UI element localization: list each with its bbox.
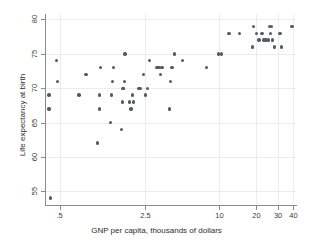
gridline-vertical <box>145 14 146 205</box>
data-point <box>280 45 283 48</box>
data-point <box>129 107 132 110</box>
x-axis-tick-label: 2.5 <box>140 211 150 220</box>
x-axis-tick <box>256 206 257 210</box>
gridline-vertical <box>60 14 61 205</box>
y-axis-tick-label: 65 <box>30 117 39 129</box>
x-axis-tick <box>60 206 61 210</box>
data-point <box>98 93 101 96</box>
gridline-horizontal <box>45 191 296 192</box>
data-point <box>131 93 134 96</box>
y-axis-tick <box>41 19 45 20</box>
gridline-horizontal <box>45 123 296 124</box>
y-axis-tick <box>41 157 45 158</box>
data-point <box>47 107 50 110</box>
gridline-vertical <box>219 14 220 205</box>
y-axis-tick <box>41 54 45 55</box>
data-point <box>128 100 131 103</box>
y-axis-tick-label: 55 <box>30 185 39 197</box>
data-point <box>220 52 223 55</box>
x-axis-tick <box>293 206 294 210</box>
x-axis-tick <box>278 206 279 210</box>
data-point <box>138 87 141 90</box>
x-axis-tick <box>145 206 146 210</box>
gridline-vertical <box>278 14 279 205</box>
data-point <box>49 196 52 199</box>
x-axis-tick-label: 30 <box>274 211 282 220</box>
x-axis-tick-label: 10 <box>215 211 223 220</box>
gridline-vertical <box>256 14 257 205</box>
data-point <box>238 32 241 35</box>
data-point <box>271 38 274 41</box>
data-point <box>123 52 126 55</box>
data-point <box>255 32 258 35</box>
data-point <box>257 38 260 41</box>
x-axis-tick <box>219 206 220 210</box>
data-point <box>170 66 173 69</box>
data-point <box>110 93 113 96</box>
data-point <box>168 107 171 110</box>
data-point <box>84 73 87 76</box>
data-point <box>290 25 293 28</box>
data-point <box>269 32 272 35</box>
data-point <box>267 38 270 41</box>
data-point <box>98 107 101 110</box>
y-axis-tick-label: 75 <box>30 48 39 60</box>
data-point <box>173 52 176 55</box>
y-axis-tick-label: 60 <box>30 151 39 163</box>
x-axis-tick-label: 40 <box>289 211 297 220</box>
x-axis-label: GNP per capita, thousands of dollars <box>0 226 313 236</box>
data-point <box>251 45 254 48</box>
y-axis-tick-label: 70 <box>30 82 39 94</box>
y-axis-tick <box>41 123 45 124</box>
gridline-horizontal <box>45 88 296 89</box>
y-axis-label: Life expectancy at birth <box>18 55 28 175</box>
y-axis-tick-label: 80 <box>30 13 39 25</box>
y-axis-tick <box>41 191 45 192</box>
data-point <box>77 93 80 96</box>
x-axis-line <box>45 205 297 206</box>
data-point <box>278 32 281 35</box>
data-point <box>273 45 276 48</box>
y-axis-tick <box>41 88 45 89</box>
gridline-horizontal <box>45 157 296 158</box>
data-point <box>132 100 135 103</box>
gridline-horizontal <box>45 19 296 20</box>
y-axis-line <box>45 14 46 206</box>
gridline-vertical <box>293 14 294 205</box>
x-axis-tick-label: .5 <box>56 211 62 220</box>
data-point <box>47 93 50 96</box>
gridline-horizontal <box>45 54 296 55</box>
data-point <box>121 100 124 103</box>
data-point <box>227 32 230 35</box>
data-point <box>144 93 147 96</box>
data-point <box>123 80 126 83</box>
x-axis-tick-label: 20 <box>252 211 260 220</box>
scatter-plot-figure: Life expectancy at birth GNP per capita,… <box>0 0 313 249</box>
data-point <box>160 66 163 69</box>
